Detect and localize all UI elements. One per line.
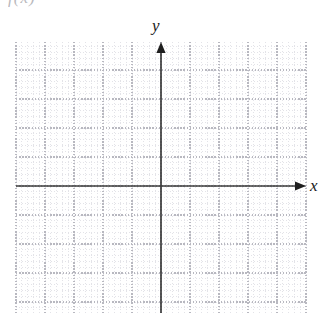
graph-plot-area	[16, 42, 306, 313]
x-axis-arrowhead	[295, 181, 306, 190]
y-axis-arrowhead	[156, 42, 165, 53]
graph-svg-canvas	[16, 42, 306, 313]
coordinate-grid-figure: f(x) y x	[0, 0, 324, 327]
clipped-caption-text: f(x)	[8, 0, 178, 8]
y-axis-label: y	[152, 17, 160, 34]
axes	[16, 42, 306, 313]
x-axis-label: x	[310, 177, 318, 194]
